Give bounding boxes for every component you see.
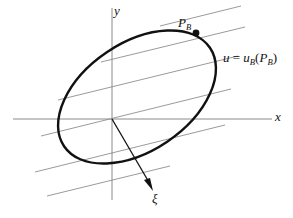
point-label-pb: PB bbox=[178, 16, 191, 29]
xi-vector-arrowhead bbox=[144, 178, 153, 191]
boundary-point-pb bbox=[193, 30, 200, 37]
equals-sign: = bbox=[233, 50, 240, 65]
figure-container: y x PB u = uB(PB) ξ bbox=[0, 0, 293, 218]
xi-direction-vector bbox=[112, 119, 153, 191]
level-line-4 bbox=[41, 89, 231, 136]
x-axis-label: x bbox=[275, 110, 281, 123]
close-paren: ) bbox=[273, 50, 277, 65]
diagram-canvas bbox=[0, 0, 293, 218]
level-line-label: u = uB(PB) bbox=[223, 51, 277, 64]
y-axis-label: y bbox=[114, 4, 120, 17]
level-line-1 bbox=[160, 6, 241, 26]
level-line-5 bbox=[35, 125, 225, 172]
point-dot-pb bbox=[193, 30, 200, 37]
xi-vector-label: ξ bbox=[152, 192, 158, 205]
